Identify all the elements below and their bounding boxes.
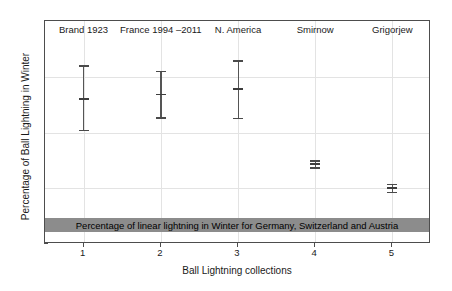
error-bar-cap-upper (310, 160, 320, 162)
series-header-label: France 1994 –2011 (120, 24, 202, 35)
error-bar-cap-upper (79, 65, 89, 67)
data-point-marker (310, 163, 320, 165)
chart-figure: Percentage of Ball Lightning in Winter B… (0, 0, 452, 291)
data-point-marker (79, 98, 89, 100)
x-tick-label: 1 (68, 248, 98, 258)
series-header-label: Smirnow (297, 24, 334, 35)
reference-band: Percentage of linear lightning in Winter… (45, 218, 429, 232)
error-bar-cap-upper (387, 184, 397, 186)
error-bar-cap-lower (310, 167, 320, 169)
series-header-label: Brand 1923 (59, 24, 108, 35)
gridline-vertical (315, 21, 316, 242)
series-header-label: Grigorjew (372, 24, 413, 35)
error-bar-cap-lower (156, 117, 166, 119)
y-tick-mark (44, 243, 48, 244)
error-bar-cap-upper (156, 71, 166, 73)
x-tick-label: 2 (145, 248, 175, 258)
series-header-label: N. America (215, 24, 261, 35)
data-point-marker (387, 187, 397, 189)
plot-area: Brand 1923France 1994 –2011N. AmericaSmi… (44, 20, 430, 243)
gridline-vertical (238, 21, 239, 242)
error-bar-cap-lower (79, 130, 89, 132)
error-bar-cap-lower (233, 118, 243, 120)
gridline-vertical (392, 21, 393, 242)
data-point-marker (233, 88, 243, 90)
gridline-horizontal (45, 133, 429, 134)
y-axis-label: Percentage of Ball Lightning in Winter (20, 25, 31, 248)
x-tick-label: 3 (222, 248, 252, 258)
error-bar-cap-upper (233, 60, 243, 62)
x-tick-label: 4 (299, 248, 329, 258)
reference-band-label: Percentage of linear lightning in Winter… (76, 220, 398, 231)
x-axis-label: Ball Lightning collections (44, 265, 430, 276)
x-tick-label: 5 (376, 248, 406, 258)
gridline-vertical (84, 21, 85, 242)
gridline-horizontal (45, 188, 429, 189)
error-bar-cap-lower (387, 192, 397, 194)
data-point-marker (156, 94, 166, 96)
gridline-vertical (161, 21, 162, 242)
